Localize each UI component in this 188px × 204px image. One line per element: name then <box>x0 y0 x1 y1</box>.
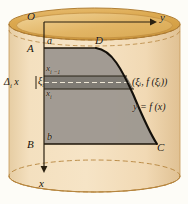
label-bound-b: b <box>47 132 52 142</box>
label-point-B: B <box>27 139 34 150</box>
label-point-D: D <box>95 35 103 46</box>
label-xi-subscript: i <box>42 81 44 88</box>
label-origin: O <box>27 11 35 22</box>
label-point-A: A <box>27 43 34 54</box>
label-point-on-curve: (ξᵢ, f (ξᵢ)) <box>132 77 167 87</box>
label-bound-a: a <box>47 36 52 46</box>
label-x-axis: x <box>39 178 44 189</box>
figure-solid-of-revolution: O y x A a D B b C xi −1 xi Δi x ξi (ξᵢ, … <box>0 0 188 204</box>
label-x-i-minus-1-subscript: i −1 <box>50 69 60 75</box>
label-xi-i: ξi <box>38 76 44 89</box>
label-x-i: xi <box>46 89 52 100</box>
label-curve-equation: y = f (x) <box>133 102 166 112</box>
label-x-i-subscript: i <box>50 94 52 100</box>
label-y-axis: y <box>160 12 165 23</box>
label-delta-tail: x <box>12 76 19 87</box>
label-delta-i-x: Δi x <box>4 77 19 90</box>
label-x-i-minus-1: xi −1 <box>46 64 60 75</box>
label-point-C: C <box>157 142 164 153</box>
